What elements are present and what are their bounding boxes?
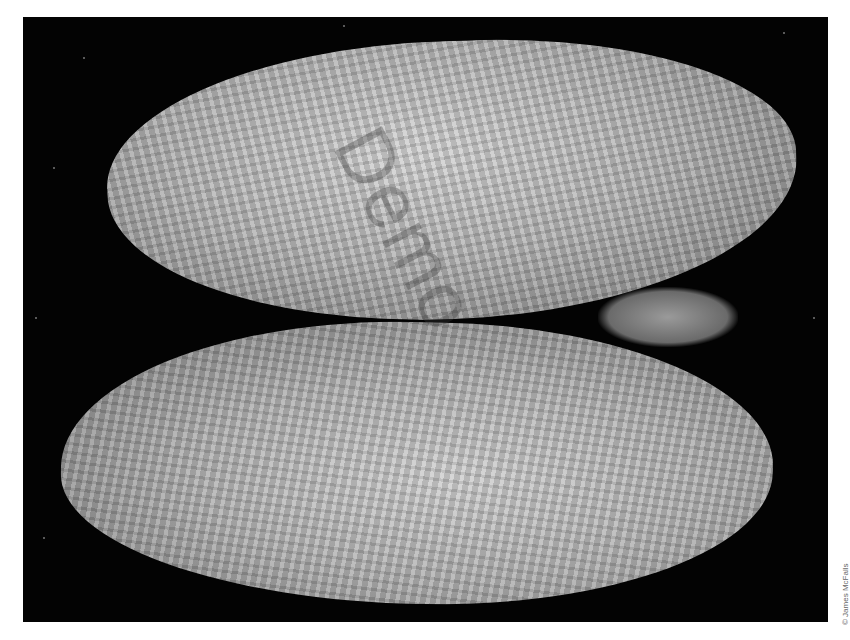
sand-speck: [83, 57, 85, 59]
sand-speck: [343, 25, 345, 27]
sand-speck: [783, 32, 785, 34]
sand-speck: [813, 317, 815, 319]
sand-speck: [43, 537, 45, 539]
sand-speck: [35, 317, 37, 319]
shell-hinge: [598, 287, 738, 347]
sand-speck: [53, 167, 55, 169]
photo-credit: © James McFalls: [841, 564, 850, 625]
lower-shell-valve: [59, 316, 776, 610]
